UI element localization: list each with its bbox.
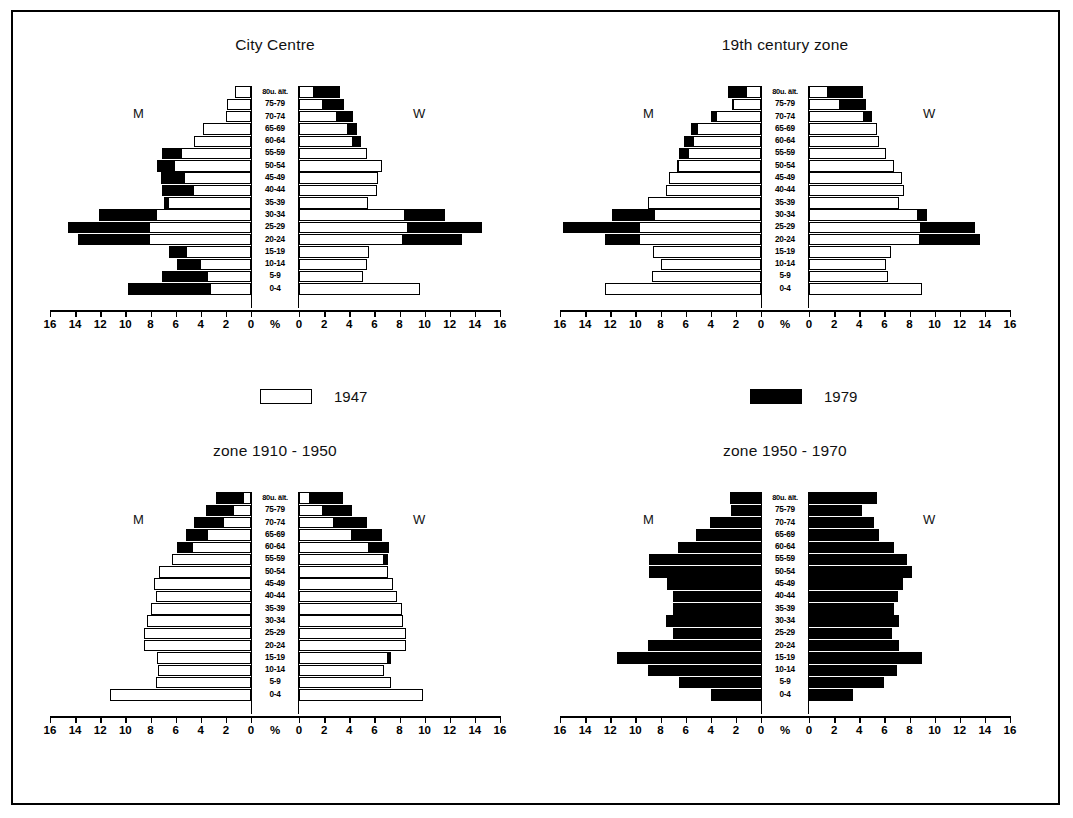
axis-tick-label: 14 (464, 724, 486, 736)
women-bars (299, 258, 500, 270)
men-bars (560, 652, 761, 664)
axis-tick (75, 716, 76, 723)
bar-women-1947 (299, 628, 406, 640)
age-group-label: 30-34 (252, 209, 298, 221)
age-group-label: 10-14 (762, 664, 808, 676)
axis-tick-label: 6 (165, 318, 187, 330)
men-bars (560, 615, 761, 627)
men-bars (560, 664, 761, 676)
axis-tick (500, 716, 501, 723)
axis-tick-label: 4 (190, 724, 212, 736)
axis-tick-label: 10 (114, 318, 136, 330)
bar-men-1947 (226, 111, 251, 123)
age-group-label: 20-24 (762, 234, 808, 246)
axis-tick-label: 14 (574, 318, 596, 330)
men-bars (560, 553, 761, 565)
axis-tick (226, 310, 227, 317)
women-bars (299, 234, 500, 246)
age-group-label: 70-74 (762, 517, 808, 529)
women-bars (299, 517, 500, 529)
age-group-label: 40-44 (762, 590, 808, 602)
bar-men-1947 (243, 492, 251, 504)
axis-tick (761, 716, 762, 723)
women-bars (809, 578, 1010, 590)
age-group-label: 5-9 (252, 676, 298, 688)
bar-men-1947 (158, 665, 251, 677)
women-bars (299, 590, 500, 602)
bar-women-1947 (299, 185, 377, 197)
bar-women-1947 (299, 172, 378, 184)
bar-men-1947 (147, 615, 251, 627)
axis-tick-label: 12 (599, 724, 621, 736)
bar-women-1947 (299, 111, 337, 123)
men-bars (560, 504, 761, 516)
figure-legend: 1947 1979 (24, 381, 1052, 415)
bar-women-1947 (299, 99, 323, 111)
women-bars (809, 98, 1010, 110)
bar-women-1979 (809, 542, 894, 554)
bar-men-1979 (649, 566, 761, 578)
bar-women-1947 (299, 640, 406, 652)
bar-women-1947 (299, 554, 384, 566)
bar-men-1947 (193, 185, 251, 197)
percent-axis: 16141210864200246810121416% (560, 716, 1010, 748)
age-group-label: 15-19 (762, 652, 808, 664)
men-bars (560, 234, 761, 246)
women-bars (299, 566, 500, 578)
age-group-label: 30-34 (762, 615, 808, 627)
women-bars (299, 209, 500, 221)
bar-women-1947 (299, 665, 384, 677)
bar-women-1947 (299, 566, 388, 578)
age-group-label: 35-39 (762, 603, 808, 615)
bar-men-1947 (186, 246, 251, 258)
age-group-label: 55-59 (762, 147, 808, 159)
axis-unit-label: % (264, 318, 286, 330)
age-group-label: 60-64 (252, 541, 298, 553)
age-group-label: 25-29 (252, 627, 298, 639)
bar-men-1947 (235, 86, 251, 98)
axis-tick-label: 8 (899, 318, 921, 330)
axis-line (560, 716, 1010, 718)
age-group-label: 50-54 (252, 160, 298, 172)
men-bars (50, 160, 251, 172)
age-group-label: 50-54 (762, 160, 808, 172)
axis-tick-label: 6 (873, 724, 895, 736)
axis-tick (711, 310, 712, 317)
women-bars (809, 147, 1010, 159)
bar-women-1947 (299, 689, 423, 701)
axis-tick-label: 10 (624, 724, 646, 736)
panel-title: 19th century zone (535, 36, 1035, 54)
bar-men-1947 (678, 160, 761, 172)
men-bars (560, 283, 761, 295)
women-bars (299, 664, 500, 676)
bar-men-1947 (669, 172, 761, 184)
bar-women-1979 (809, 591, 898, 603)
bar-women-1947 (809, 197, 899, 209)
men-bars (560, 135, 761, 147)
axis-tick (349, 310, 350, 317)
age-group-label: 0-4 (252, 689, 298, 701)
bar-men-1947 (181, 148, 251, 160)
age-group-label: 25-29 (762, 627, 808, 639)
age-group-label: 45-49 (252, 578, 298, 590)
axis-tick-label: 14 (464, 318, 486, 330)
axis-tick-label: 0 (288, 724, 310, 736)
age-group-axis: 80u. ält.75-7970-7465-6960-6455-5950-544… (251, 86, 299, 308)
age-group-label: 50-54 (762, 566, 808, 578)
bar-women-1979 (809, 677, 884, 689)
women-bars (299, 578, 500, 590)
bar-men-1947 (154, 578, 251, 590)
men-bars (50, 246, 251, 258)
men-bars (50, 517, 251, 529)
bar-women-1979 (809, 652, 922, 664)
women-bars (809, 627, 1010, 639)
men-bars (50, 504, 251, 516)
age-group-label: 70-74 (762, 111, 808, 123)
men-bars (50, 553, 251, 565)
age-group-label: 60-64 (762, 541, 808, 553)
bar-men-1947 (654, 209, 761, 221)
axis-tick (75, 310, 76, 317)
men-bars (560, 123, 761, 135)
axis-tick (251, 310, 252, 317)
women-bars (299, 123, 500, 135)
